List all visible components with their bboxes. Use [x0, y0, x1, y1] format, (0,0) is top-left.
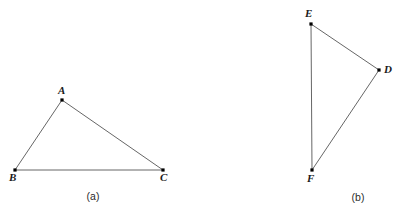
vertex-point-a [60, 98, 63, 101]
figure-background [0, 0, 403, 219]
vertex-label-e: E [305, 8, 312, 19]
vertex-label-a: A [58, 85, 65, 96]
vertex-label-f: F [307, 173, 314, 184]
geometry-figure: ABCEDF (a)(b) [0, 0, 403, 219]
panel-caption-b: (b) [338, 192, 378, 203]
vertex-label-c: C [160, 172, 167, 183]
figure-canvas [0, 0, 403, 219]
vertex-point-d [377, 68, 380, 71]
vertex-point-e [309, 22, 312, 25]
vertex-label-d: D [384, 64, 392, 75]
vertex-label-b: B [9, 172, 16, 183]
panel-caption-a: (a) [73, 191, 113, 202]
